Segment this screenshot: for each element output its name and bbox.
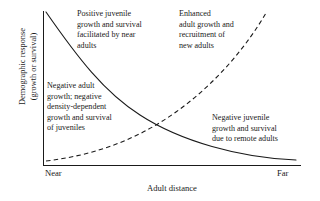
annotation-positive-juvenile: Positive juvenile growth and survival fa… <box>77 9 169 51</box>
annotation-enhanced-adult: Enhanced adult growth and recruitment of… <box>179 9 257 51</box>
x-tick-label-near: Near <box>45 168 62 178</box>
annotation-negative-juvenile: Negative juvenile growth and survival du… <box>212 113 308 145</box>
annotation-negative-adult: Negative adult growth; negative density-… <box>47 81 133 134</box>
x-axis-label: Adult distance <box>43 183 301 193</box>
figure-container: Demographic response (growth or survival… <box>0 0 320 201</box>
x-tick-label-far: Far <box>277 168 288 178</box>
y-axis-label: Demographic response (growth or survival… <box>18 0 39 137</box>
